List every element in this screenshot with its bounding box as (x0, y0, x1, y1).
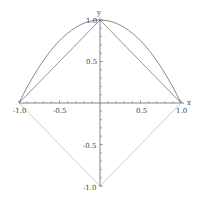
y-tick-label: -1.0 (83, 184, 97, 192)
function-plot: x y -1.0 -0.5 0.5 1.0 1.0 0.5 -0.5 -1.0 (0, 0, 199, 202)
y-tick-label: -0.5 (83, 142, 97, 150)
x-tick-label: -1.0 (13, 107, 27, 115)
x-tick-label: 1.0 (176, 107, 187, 115)
y-tick-label: 0.5 (86, 58, 97, 66)
x-tick-label: -0.5 (53, 107, 67, 115)
y-tick-label: 1.0 (86, 17, 97, 25)
x-tick-label: 0.5 (136, 107, 147, 115)
x-axis-label: x (187, 99, 191, 107)
y-axis-label: y (96, 9, 101, 17)
plot-canvas: x y -1.0 -0.5 0.5 1.0 1.0 0.5 -0.5 -1.0 (0, 0, 199, 202)
